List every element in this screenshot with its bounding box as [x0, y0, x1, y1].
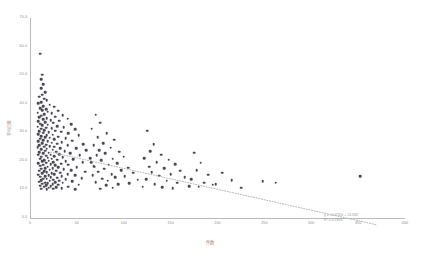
data-point — [59, 171, 62, 174]
data-point — [38, 96, 41, 99]
data-point — [96, 136, 99, 139]
data-point — [80, 177, 83, 180]
data-point — [53, 138, 56, 141]
data-point — [85, 149, 88, 152]
data-point — [107, 164, 110, 167]
data-point — [99, 121, 102, 124]
data-point — [64, 137, 67, 140]
data-point — [49, 163, 52, 166]
data-point — [169, 173, 172, 176]
y-tick-label: 70.0 — [20, 16, 27, 20]
data-point — [74, 128, 77, 131]
data-point — [57, 110, 60, 113]
data-point — [60, 130, 63, 133]
data-point — [58, 153, 61, 156]
data-point — [44, 167, 47, 170]
data-point — [110, 173, 113, 176]
data-point — [44, 91, 47, 94]
data-point — [41, 124, 44, 127]
data-point — [36, 146, 39, 149]
regression-annotation: y = -0.0732x + 24.682 R² = 0.1803 — [324, 213, 358, 223]
data-point — [42, 132, 45, 135]
data-point — [118, 150, 121, 153]
data-point — [46, 99, 49, 102]
data-point — [69, 152, 72, 155]
data-point — [160, 153, 163, 156]
data-point — [123, 175, 126, 178]
data-point — [188, 185, 191, 188]
data-point — [91, 128, 94, 131]
data-point — [167, 158, 170, 161]
data-point — [63, 150, 66, 153]
data-point — [37, 102, 40, 105]
x-tick-label: 150 — [167, 222, 173, 226]
data-point — [71, 180, 74, 183]
data-point — [176, 181, 179, 184]
data-point — [36, 111, 39, 114]
data-point — [55, 170, 58, 173]
data-point — [40, 101, 43, 104]
data-point — [230, 179, 233, 182]
x-tick-label: 100 — [121, 222, 127, 226]
data-point — [39, 52, 42, 55]
data-point — [47, 110, 50, 113]
data-point — [64, 160, 67, 163]
data-point — [81, 161, 84, 164]
data-point — [42, 105, 45, 108]
data-point — [196, 169, 199, 172]
data-point — [148, 165, 151, 168]
data-point — [48, 104, 51, 107]
data-point — [99, 187, 102, 190]
data-point — [61, 187, 64, 190]
data-point — [94, 113, 97, 116]
data-point — [59, 147, 62, 150]
data-point — [174, 163, 177, 166]
data-point — [128, 182, 131, 185]
data-point — [101, 177, 104, 180]
data-point — [62, 156, 65, 159]
data-point — [54, 115, 57, 118]
data-point — [274, 181, 277, 184]
x-tick-label: 400 — [402, 222, 408, 226]
data-point — [122, 156, 125, 159]
data-point — [47, 140, 50, 143]
r-squared-value: R² = 0.1803 — [324, 218, 358, 223]
data-point — [76, 166, 79, 169]
data-point — [66, 117, 69, 120]
data-point — [155, 161, 158, 164]
data-point — [37, 140, 40, 143]
data-point — [117, 183, 120, 186]
data-point — [50, 157, 53, 160]
data-point — [51, 133, 54, 136]
data-point — [84, 170, 87, 173]
data-point — [53, 106, 56, 109]
data-point — [57, 166, 60, 169]
data-point — [145, 178, 148, 181]
data-point — [48, 145, 51, 148]
data-point — [54, 129, 57, 132]
x-tick-label: 0 — [29, 222, 31, 226]
data-point — [66, 173, 69, 176]
data-point — [183, 176, 186, 179]
data-point — [93, 165, 96, 168]
data-point — [166, 180, 169, 183]
data-point — [47, 159, 50, 162]
x-tick-label: 300 — [308, 222, 314, 226]
data-point — [77, 134, 80, 137]
data-point — [143, 157, 146, 160]
y-tick-label: 20.0 — [20, 159, 27, 163]
data-point — [45, 162, 48, 165]
data-point — [70, 169, 73, 172]
data-point — [52, 122, 55, 125]
data-point — [41, 93, 44, 96]
data-point — [40, 187, 43, 190]
data-point — [90, 161, 93, 164]
data-point — [261, 180, 264, 183]
data-point — [41, 109, 44, 112]
data-point — [42, 83, 45, 86]
data-point — [111, 186, 114, 189]
data-point — [41, 142, 44, 145]
data-point — [56, 158, 59, 161]
data-point — [199, 161, 202, 164]
data-point — [51, 148, 54, 151]
